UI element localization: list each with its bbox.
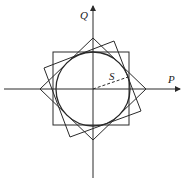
p-axis-label: P — [167, 73, 175, 85]
pq-diagram: Q P S — [0, 0, 182, 180]
radius-label: S — [109, 70, 115, 82]
q-axis-label: Q — [80, 9, 88, 21]
